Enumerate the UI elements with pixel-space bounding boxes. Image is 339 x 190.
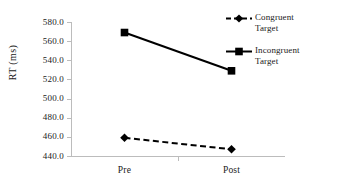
y-tick-mark [67, 60, 71, 61]
y-tick-label: 460.0 [30, 132, 64, 141]
legend-label-incongruent-target: IncongruentTarget [255, 45, 339, 66]
y-tick-label: 560.0 [30, 37, 64, 46]
legend-marker-dashed-diamond-icon [226, 14, 252, 23]
y-tick-mark [67, 156, 71, 157]
legend-label-line1: Congruent [255, 12, 294, 22]
series-line-0 [125, 138, 232, 149]
legend-marker-solid-square-icon [226, 47, 252, 56]
legend-label-line2: Target [255, 23, 278, 33]
x-tick-label-post: Post [202, 165, 262, 175]
legend-item-incongruent-target: IncongruentTarget [226, 45, 339, 67]
y-tick-label: 500.0 [30, 94, 64, 103]
legend-item-congruent-target: CongruentTarget [226, 12, 339, 34]
data-point-marker-diamond [120, 134, 129, 143]
y-tick-mark [67, 137, 71, 138]
y-tick-mark [67, 99, 71, 100]
data-point-marker-square [121, 29, 129, 37]
y-axis-line [71, 22, 72, 156]
y-tick-label: 540.0 [30, 56, 64, 65]
x-axis-center-tick [178, 157, 179, 161]
y-tick-mark [67, 22, 71, 23]
series-line-1 [125, 33, 232, 71]
chart-legend: CongruentTarget IncongruentTarget [226, 12, 339, 78]
legend-label-line1: Incongruent [255, 45, 300, 55]
y-tick-mark [67, 118, 71, 119]
y-tick-mark [67, 79, 71, 80]
y-tick-label: 480.0 [30, 113, 64, 122]
y-axis-title: RT (ms) [7, 27, 18, 99]
data-point-marker-diamond [227, 145, 236, 154]
legend-label-line2: Target [255, 56, 278, 66]
y-tick-mark [67, 41, 71, 42]
legend-label-congruent-target: CongruentTarget [255, 12, 339, 33]
y-axis-tick-labels: 440.0460.0480.0500.0520.0540.0560.0580.0 [30, 0, 64, 190]
y-tick-label: 520.0 [30, 75, 64, 84]
y-tick-label: 580.0 [30, 18, 64, 27]
y-tick-label: 440.0 [30, 152, 64, 161]
rt-line-chart: RT (ms) 440.0460.0480.0500.0520.0540.056… [0, 0, 339, 190]
x-tick-label-pre: Pre [95, 165, 155, 175]
